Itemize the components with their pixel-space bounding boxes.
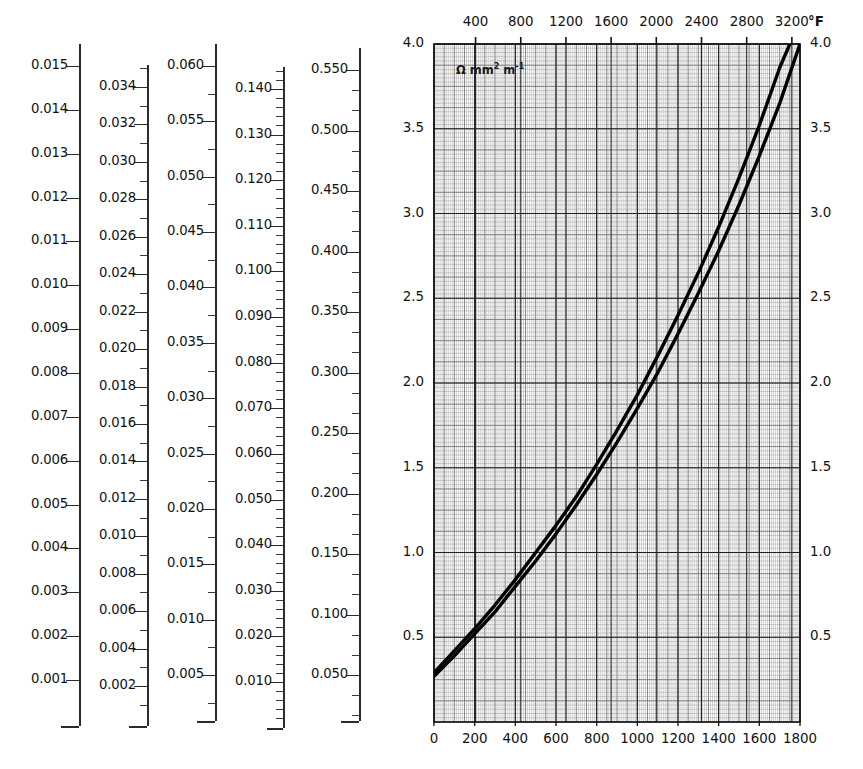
ytick-label-left: 3.5: [392, 120, 424, 135]
ytick-label-right: 2.0: [810, 374, 831, 389]
unit-base: Ω mm: [456, 63, 494, 77]
ytick-label-left: 4.0: [392, 35, 424, 50]
resistivity-unit-annotation: Ω mm2 m-1: [456, 62, 524, 77]
ytick-label-right: 1.5: [810, 459, 831, 474]
ytick-label-left: 1.5: [392, 459, 424, 474]
ytick-label-left: 0.5: [392, 628, 424, 643]
unit-exponent-length: -1: [515, 62, 524, 71]
xaxis-unit-fahrenheit: °F: [808, 14, 824, 29]
unit-mid: m: [499, 63, 515, 77]
ytick-label-right: 0.5: [810, 628, 831, 643]
plot-svg: [0, 0, 863, 769]
ytick-label-right: 4.0: [810, 35, 831, 50]
ytick-label-left: 1.0: [392, 544, 424, 559]
ytick-label-left: 2.0: [392, 374, 424, 389]
ytick-label-left: 2.5: [392, 289, 424, 304]
figure-root: 0.0150.0140.0130.0120.0110.0100.0090.008…: [0, 0, 863, 769]
ytick-label-left: 3.0: [392, 205, 424, 220]
ytick-label-right: 3.0: [810, 205, 831, 220]
ytick-label-right: 1.0: [810, 544, 831, 559]
xtick-label-bottom: 1800: [770, 731, 830, 746]
ytick-label-right: 2.5: [810, 289, 831, 304]
ytick-label-right: 3.5: [810, 120, 831, 135]
